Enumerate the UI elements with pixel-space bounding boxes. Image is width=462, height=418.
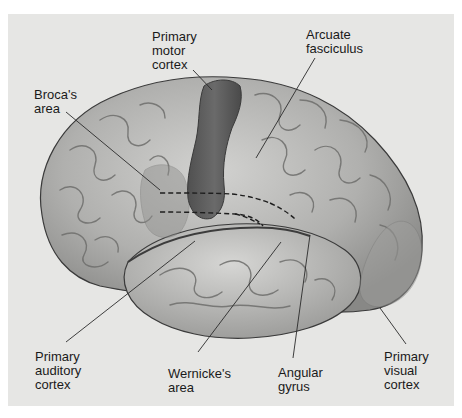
label-arcuate-fasciculus: Arcuate fasciculus — [306, 28, 363, 56]
brocas-area-region — [140, 165, 189, 238]
label-angular-gyrus: Angular gyrus — [278, 366, 323, 394]
label-brocas-area: Broca's area — [34, 88, 77, 116]
label-wernickes-area: Wernicke's area — [168, 367, 231, 395]
label-primary-motor-cortex: Primary motor cortex — [152, 30, 197, 72]
label-primary-auditory-cortex: Primary auditory cortex — [35, 350, 81, 392]
temporal-lobe — [124, 224, 361, 339]
label-primary-visual-cortex: Primary visual cortex — [384, 350, 429, 392]
